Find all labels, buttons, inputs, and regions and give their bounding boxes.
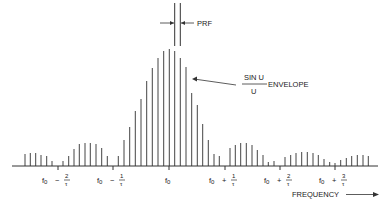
svg-text:f0: f0 [42, 176, 48, 185]
envelope-label: ENVELOPE [268, 80, 308, 89]
prf-marker: PRF [160, 3, 212, 46]
svg-text:τ: τ [65, 181, 68, 187]
tick-labels: f0−2τf0−1τf0f0+1τf0+2τf0+3τ [42, 173, 347, 187]
svg-text:2: 2 [65, 173, 69, 179]
svg-text:f0: f0 [209, 176, 215, 185]
svg-text:+: + [222, 176, 227, 185]
svg-text:f0: f0 [165, 176, 171, 185]
svg-text:f0: f0 [319, 176, 325, 185]
envelope-denominator: U [251, 87, 256, 96]
tick-label: f0−2τ [42, 173, 70, 187]
spectrum-diagram: f0−2τf0−1τf0f0+1τf0+2τf0+3τ PRF SIN U U … [0, 0, 389, 206]
svg-text:f0: f0 [264, 176, 270, 185]
svg-text:−: − [110, 176, 115, 185]
tick-label: f0+1τ [209, 173, 237, 187]
tick-label: f0 [165, 176, 171, 185]
svg-text:τ: τ [287, 181, 290, 187]
envelope-annotation: SIN U U ENVELOPE [192, 73, 308, 96]
svg-text:1: 1 [232, 173, 236, 179]
svg-text:−: − [55, 176, 60, 185]
svg-text:2: 2 [287, 173, 291, 179]
svg-text:3: 3 [342, 173, 346, 179]
prf-label: PRF [197, 19, 212, 28]
svg-text:τ: τ [342, 181, 345, 187]
axis-ticks [58, 166, 335, 170]
arrow-left-icon [181, 21, 185, 25]
arrow-right-icon [170, 21, 174, 25]
svg-text:1: 1 [120, 173, 124, 179]
tick-label: f0+2τ [264, 173, 292, 187]
spectral-lines [25, 49, 368, 166]
tick-label: f0+3τ [319, 173, 347, 187]
arrow-right-icon [373, 192, 379, 197]
tick-label: f0−1τ [97, 173, 125, 187]
svg-text:f0: f0 [97, 176, 103, 185]
svg-text:+: + [277, 176, 282, 185]
arrow-left-icon [192, 77, 197, 82]
envelope-numerator: SIN U [244, 73, 264, 82]
frequency-axis-label: FREQUENCY [292, 190, 339, 199]
svg-text:+: + [332, 176, 337, 185]
svg-text:τ: τ [232, 181, 235, 187]
frequency-label: FREQUENCY [292, 190, 379, 199]
svg-text:τ: τ [120, 181, 123, 187]
